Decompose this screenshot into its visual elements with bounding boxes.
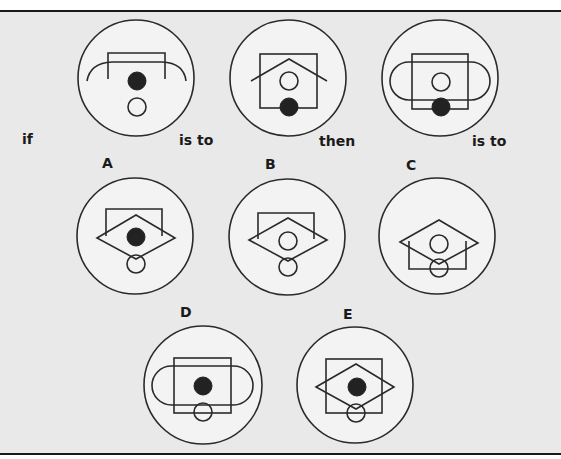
figures-canvas <box>0 0 561 459</box>
option-a-figure[interactable] <box>77 178 193 294</box>
option-c-figure[interactable] <box>379 178 495 294</box>
option-d-figure[interactable] <box>144 326 262 444</box>
option-label-e: E <box>343 307 353 321</box>
option-b-figure[interactable] <box>229 179 345 295</box>
option-label-c: C <box>406 158 416 172</box>
outer-circle-icon <box>382 20 498 136</box>
example-figure-3 <box>382 20 498 136</box>
option-label-a: A <box>102 156 113 170</box>
option-label-d: D <box>180 305 192 319</box>
outer-circle-icon <box>230 20 346 136</box>
word-then: then <box>319 134 355 148</box>
filled-dot-icon <box>348 378 366 396</box>
filled-dot-icon <box>280 98 298 116</box>
filled-dot-icon <box>194 377 212 395</box>
filled-dot-icon <box>432 98 450 116</box>
filled-dot-icon <box>127 228 145 246</box>
word-is-to-1: is to <box>179 133 213 147</box>
option-e-figure[interactable] <box>297 327 413 443</box>
example-figure-1 <box>78 20 194 136</box>
filled-dot-icon <box>128 72 146 90</box>
word-is-to-2: is to <box>472 134 506 148</box>
example-figure-2 <box>230 20 346 136</box>
outer-circle-icon <box>229 179 345 295</box>
option-label-b: B <box>265 157 276 171</box>
word-if: if <box>22 132 33 146</box>
